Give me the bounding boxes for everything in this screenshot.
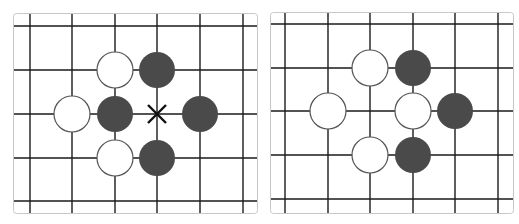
white-stone xyxy=(97,52,133,88)
white-stone xyxy=(310,93,346,129)
black-stone xyxy=(139,52,175,88)
black-stone xyxy=(97,96,133,132)
white-stone xyxy=(352,50,388,86)
go-diagram xyxy=(0,0,519,224)
black-stone xyxy=(139,140,175,176)
right-board xyxy=(271,13,514,214)
black-stone xyxy=(182,96,218,132)
white-stone xyxy=(54,96,90,132)
left-board xyxy=(14,14,258,214)
white-stone xyxy=(97,140,133,176)
black-stone xyxy=(395,50,431,86)
board-panel xyxy=(271,13,514,214)
white-stone xyxy=(352,137,388,173)
black-stone xyxy=(395,137,431,173)
white-stone xyxy=(395,93,431,129)
black-stone xyxy=(437,93,473,129)
